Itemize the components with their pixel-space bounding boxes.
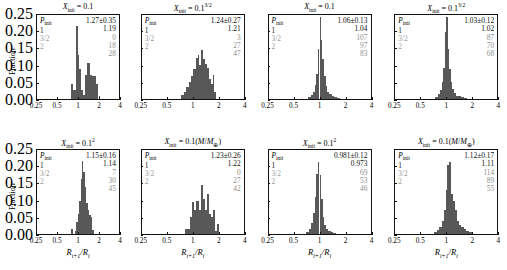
y-tick-mark — [36, 218, 39, 219]
y-tick-mark — [268, 218, 271, 219]
panel-title: Xinit = 0.13/2 — [141, 2, 245, 14]
x-tick-mark — [167, 97, 168, 100]
x-tick-label: 1 — [76, 237, 80, 245]
y-tick-mark — [141, 100, 144, 101]
x-tick-mark — [99, 97, 100, 100]
y-tick-mark — [141, 166, 144, 167]
y-tick-label: 0.25 — [5, 5, 33, 23]
histogram-bar — [333, 233, 336, 234]
histogram-bar — [92, 230, 94, 234]
x-tick-label: 1 — [318, 102, 322, 110]
y-tick-mark — [268, 31, 271, 32]
x-tick-label: 4 — [496, 237, 500, 245]
x-tick-mark — [78, 232, 79, 235]
x-tick-mark — [268, 97, 269, 100]
legend-values: 1.23±0.261.2202742 — [211, 152, 241, 193]
y-tick-mark — [141, 201, 144, 202]
x-axis-title: Ri+1/Ri — [394, 247, 498, 259]
x-tick-label: 0.5 — [162, 237, 171, 245]
x-tick-label: 4 — [370, 102, 374, 110]
legend-values: 1.15±0.161.1473045 — [86, 152, 116, 193]
plot-axes: Pinit13/221.27±0.351.1901828 — [36, 14, 120, 100]
legend-labels: Pinit13/22 — [40, 152, 52, 186]
x-tick-mark — [167, 232, 168, 235]
y-tick-mark — [36, 66, 39, 67]
x-tick-mark — [498, 97, 499, 100]
legend-row-p2: 2 — [272, 178, 284, 186]
y-tick-mark — [36, 100, 39, 101]
legend-row-p2: 2 — [398, 178, 410, 186]
x-tick-mark — [268, 232, 269, 235]
x-tick-mark — [372, 97, 373, 100]
y-tick-mark — [141, 149, 144, 150]
y-tick-mark — [36, 166, 39, 167]
y-tick-label: 0.20 — [5, 22, 33, 40]
legend-labels: Pinit13/22 — [40, 17, 52, 51]
x-tick-label: 1 — [76, 102, 80, 110]
x-tick-label: 0.5 — [162, 102, 171, 110]
y-tick-mark — [268, 100, 271, 101]
value-count-p2: 83 — [338, 50, 368, 58]
y-tick-mark — [268, 183, 271, 184]
x-tick-label: 2 — [97, 102, 101, 110]
x-tick-mark — [394, 232, 395, 235]
panel-3: Xinit = 0.13/2Pinit13/221.03±0.121.02877… — [380, 0, 507, 135]
x-tick-label: 1 — [191, 102, 195, 110]
legend-labels: Pinit13/22 — [145, 152, 157, 186]
y-axis-title: Fraction — [8, 183, 17, 210]
plot-axes: Pinit13/220.981±0.120.973695346 — [268, 149, 372, 235]
value-count-p2: 46 — [334, 185, 368, 193]
y-tick-mark — [268, 166, 271, 167]
value-count-p2: 28 — [86, 50, 116, 58]
x-tick-label: 2 — [470, 237, 474, 245]
panel-4: Xinit = 0.12Pinit13/221.15±0.161.1473045… — [0, 135, 127, 270]
panel-title: Xinit = 0.12 — [268, 137, 372, 149]
panel-7: Xinit = 0.1(M/M⊕)Pinit13/221.12±0.171.11… — [380, 135, 507, 270]
x-tick-mark — [294, 232, 295, 235]
panel-grid: Xinit = 0.1Pinit13/221.27±0.351.19018280… — [0, 0, 507, 270]
x-tick-label: 4 — [118, 102, 122, 110]
value-count-p2: 47 — [211, 50, 241, 58]
panel-title: Xinit = 0.1(M/M⊕) — [394, 137, 498, 148]
panel-1: Xinit = 0.13/2Pinit13/221.24±0.271.21327… — [127, 0, 254, 135]
x-tick-mark — [120, 97, 121, 100]
y-tick-mark — [36, 14, 39, 15]
y-tick-mark — [394, 183, 397, 184]
histogram-bar — [71, 229, 73, 234]
x-tick-label: 0.5 — [289, 102, 298, 110]
x-tick-mark — [193, 232, 194, 235]
y-tick-mark — [141, 31, 144, 32]
legend-values: 0.981±0.120.973695346 — [334, 152, 368, 193]
legend-labels: Pinit13/22 — [145, 17, 157, 51]
plot-axes: Pinit13/221.15±0.161.1473045 — [36, 149, 120, 235]
y-tick-label: 0.25 — [5, 140, 33, 158]
x-axis-title: Ri+1/Ri — [36, 247, 120, 259]
x-tick-label: 4 — [243, 237, 247, 245]
value-count-p2: 68 — [464, 50, 494, 58]
plot-axes: Pinit13/221.24±0.271.2132747 — [141, 14, 245, 100]
legend-labels: Pinit13/22 — [398, 17, 410, 51]
plot-axes: Pinit13/221.06±0.131.041079783 — [268, 14, 372, 100]
legend-labels: Pinit13/22 — [272, 152, 284, 186]
y-tick-mark — [394, 166, 397, 167]
x-tick-label: 0.5 — [289, 237, 298, 245]
y-tick-mark — [394, 235, 397, 236]
legend-row-p2: 2 — [272, 43, 284, 51]
legend-row-p2: 2 — [40, 43, 52, 51]
x-tick-label: 1 — [444, 102, 448, 110]
x-tick-mark — [245, 97, 246, 100]
y-tick-mark — [36, 83, 39, 84]
panel-5: Xinit = 0.1(M/M⊕)Pinit13/221.23±0.261.22… — [127, 135, 254, 270]
y-tick-mark — [394, 66, 397, 67]
x-tick-mark — [372, 232, 373, 235]
x-axis-title: Ri+1/Ri — [268, 247, 372, 259]
x-tick-label: 2 — [217, 237, 221, 245]
x-tick-mark — [193, 97, 194, 100]
y-tick-mark — [36, 201, 39, 202]
x-tick-mark — [320, 232, 321, 235]
y-tick-mark — [36, 31, 39, 32]
x-tick-mark — [346, 232, 347, 235]
histogram-bar — [464, 98, 467, 99]
x-tick-label: 1 — [318, 237, 322, 245]
legend-values: 1.12±0.171.111148955 — [464, 152, 494, 193]
